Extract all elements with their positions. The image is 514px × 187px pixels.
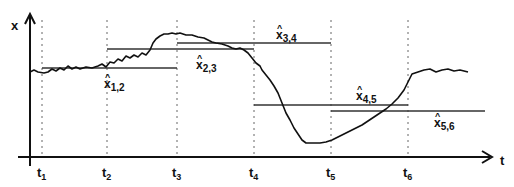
time-label-t2: t2	[102, 165, 111, 182]
time-mark-labels: t1t2t3t4t5t6	[37, 165, 412, 182]
signal-estimation-diagram: x t ^x1,2^x2,3^x3,4^x4,5^x5,6 t1t2t3t4t5…	[0, 0, 514, 187]
estimate-label-2-3: x2,3	[196, 58, 217, 74]
y-axis-label: x	[11, 18, 19, 33]
time-label-t1: t1	[37, 165, 46, 182]
diagram-canvas: x t ^x1,2^x2,3^x3,4^x4,5^x5,6 t1t2t3t4t5…	[0, 0, 514, 187]
time-mark-gridlines	[42, 20, 408, 157]
time-label-t3: t3	[172, 165, 181, 182]
estimate-lines: ^x1,2^x2,3^x3,4^x4,5^x5,6	[42, 23, 485, 132]
time-label-t4: t4	[249, 165, 258, 182]
time-label-t5: t5	[326, 165, 335, 182]
estimate-label-3-4: x3,4	[276, 28, 297, 44]
time-label-t6: t6	[403, 165, 412, 182]
estimate-label-5-6: x5,6	[434, 116, 455, 132]
x-axis-label: t	[500, 153, 505, 168]
estimate-label-4-5: x4,5	[356, 89, 377, 105]
estimate-label-1-2: x1,2	[104, 77, 125, 93]
